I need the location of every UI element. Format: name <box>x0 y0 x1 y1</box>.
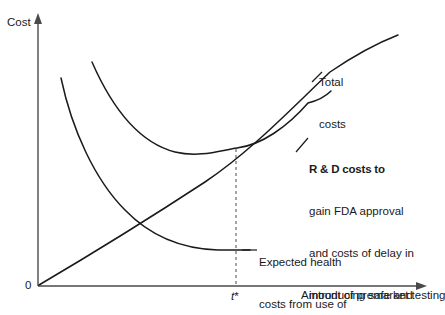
optimum-tick-label: t* <box>231 289 239 303</box>
y-axis-arrow-icon <box>34 13 42 24</box>
annotation-total-costs-line-2: costs <box>319 117 346 131</box>
y-axis-title: Cost <box>7 15 31 29</box>
annotation-total-costs-line-1: Total <box>319 75 346 89</box>
annotation-health-costs: Expected health costs from use of a drug… <box>259 227 349 315</box>
cost-of-premarket-testing-figure: Cost 0 t* Amount of premarket testing To… <box>0 0 445 315</box>
annotation-health-costs-line-2: costs from use of <box>259 297 349 311</box>
annotation-health-costs-line-1: Expected health <box>259 255 349 269</box>
curve-expected-health-costs <box>61 78 250 250</box>
annotation-rnd-costs-heading: R & D costs to <box>309 162 414 176</box>
leader-line-rnd-costs <box>296 138 308 152</box>
curve-total-costs <box>92 62 331 154</box>
annotation-rnd-costs-line-1: gain FDA approval <box>309 204 414 218</box>
origin-label: 0 <box>25 278 31 292</box>
optimum-tick-star: * <box>234 290 238 302</box>
